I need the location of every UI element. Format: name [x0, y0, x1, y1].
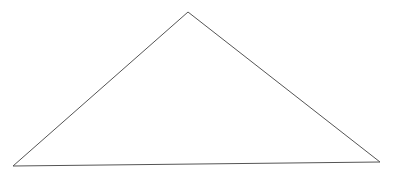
diagram-canvas: [0, 0, 393, 176]
triangle-shape: [13, 12, 380, 166]
